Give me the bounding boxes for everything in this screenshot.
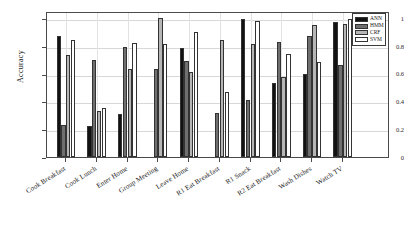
bar-ann-cook-breakfast: [57, 36, 61, 157]
plot-area: [46, 12, 389, 158]
bar-ann-leave-home: [180, 48, 184, 157]
legend-label: ANN: [370, 16, 382, 22]
x-tick-label: Watch TV: [238, 165, 344, 225]
bar-ann-enter-home: [118, 114, 122, 157]
legend-item-svm[interactable]: SVM: [355, 37, 383, 44]
bar-crf-watch-tv: [343, 24, 347, 157]
x-tick-mark: [96, 158, 97, 162]
bar-svm-enter-home: [132, 43, 136, 157]
bar-chart-figure: Accuracy 00.20.40.60.81 Cook BreakfastCo…: [0, 0, 404, 225]
legend-label: HMM: [370, 23, 384, 29]
bar-crf-group-meeting: [158, 18, 162, 157]
bar-svm-wash-dishes: [317, 62, 321, 157]
x-tick-mark: [280, 158, 281, 162]
bar-crf-cook-lunch: [97, 111, 101, 157]
bar-crf-r1-eat-breakfast: [220, 40, 224, 157]
bar-ann-r1-snack: [241, 19, 245, 157]
bar-hmm-r1-eat-breakfast: [215, 113, 219, 157]
bar-crf-leave-home: [189, 72, 193, 158]
bar-hmm-wash-dishes: [307, 36, 311, 157]
bar-svm-group-meeting: [163, 44, 167, 157]
bar-crf-enter-home: [128, 69, 132, 157]
bar-crf-r2-eat-breakfast: [281, 77, 285, 157]
bar-svm-r1-eat-breakfast: [225, 92, 229, 157]
bar-hmm-enter-home: [123, 47, 127, 157]
bar-hmm-r2-eat-breakfast: [277, 42, 281, 157]
x-tick-mark: [127, 158, 128, 162]
bar-ann-wash-dishes: [303, 74, 307, 157]
x-tick-mark: [157, 158, 158, 162]
x-tick-mark: [342, 158, 343, 162]
bar-hmm-group-meeting: [154, 69, 158, 157]
legend-swatch-ann: [355, 17, 368, 22]
bar-svm-r2-eat-breakfast: [286, 54, 290, 157]
legend-label: CRF: [370, 30, 380, 36]
bar-hmm-cook-breakfast: [61, 125, 65, 157]
legend[interactable]: ANNHMMCRFSVM: [352, 13, 386, 46]
y-axis-label: Accuracy: [16, 27, 25, 107]
bar-ann-watch-tv: [333, 22, 337, 157]
bar-svm-leave-home: [194, 32, 198, 157]
gridline: [47, 20, 388, 21]
bar-svm-r1-snack: [255, 21, 259, 157]
bar-crf-r1-snack: [251, 44, 255, 157]
bar-crf-wash-dishes: [312, 25, 316, 157]
x-tick-mark: [188, 158, 189, 162]
x-tick-mark: [65, 158, 66, 162]
x-tick-mark: [311, 158, 312, 162]
bar-hmm-leave-home: [184, 61, 188, 157]
bar-hmm-watch-tv: [338, 65, 342, 157]
legend-swatch-crf: [355, 30, 368, 35]
bar-svm-cook-lunch: [102, 108, 106, 157]
bar-crf-cook-breakfast: [66, 55, 70, 157]
y-tick-mark: [42, 158, 46, 159]
legend-swatch-hmm: [355, 24, 368, 29]
bar-hmm-cook-lunch: [92, 60, 96, 157]
x-tick-mark: [219, 158, 220, 162]
bar-svm-cook-breakfast: [71, 40, 75, 157]
x-tick-mark: [250, 158, 251, 162]
bar-ann-r2-eat-breakfast: [272, 83, 276, 157]
legend-swatch-svm: [355, 37, 368, 42]
legend-label: SVM: [370, 37, 382, 43]
bar-hmm-r1-snack: [246, 100, 250, 157]
bar-ann-cook-lunch: [87, 126, 91, 157]
